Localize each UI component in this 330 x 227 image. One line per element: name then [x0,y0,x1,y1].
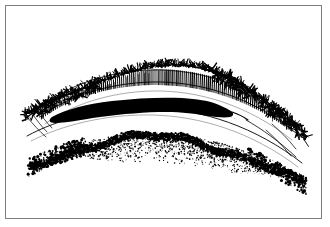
figure-root [0,0,330,227]
figure-illustration [0,0,330,227]
